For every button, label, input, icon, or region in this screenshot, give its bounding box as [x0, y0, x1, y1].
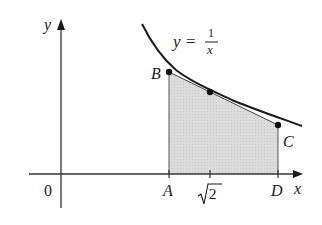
- point-C-dot: [275, 122, 281, 128]
- function-equals: =: [186, 32, 196, 51]
- point-C-label: C: [283, 133, 294, 150]
- shaded-trapezoid-region: [169, 72, 278, 174]
- function-numerator: 1: [208, 26, 214, 40]
- point-tangent-dot: [207, 89, 213, 95]
- point-B-label: B: [151, 65, 161, 82]
- function-lhs: y: [171, 32, 181, 51]
- origin-label: 0: [44, 182, 52, 199]
- y-axis-label: y: [42, 16, 52, 34]
- function-denominator: x: [206, 42, 213, 57]
- tick-label-sqrt2: 2: [198, 184, 222, 204]
- x-axis-arrow-icon: [293, 170, 303, 178]
- y-axis-arrow-icon: [57, 19, 65, 30]
- radicand: 2: [209, 186, 217, 202]
- function-label: y = 1 x: [171, 26, 218, 57]
- tick-label-A: A: [162, 182, 173, 199]
- diagram-canvas: y x 0 B C A D 2 y = 1 x: [0, 0, 322, 225]
- point-B-dot: [166, 69, 172, 75]
- tick-label-D: D: [270, 182, 283, 199]
- x-axis-label: x: [293, 180, 301, 197]
